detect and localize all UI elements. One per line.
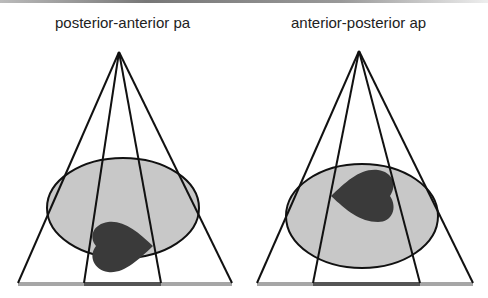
xray-projection-diagram [0,0,488,298]
pa-diagram [18,52,232,284]
ap-diagram [257,51,473,284]
